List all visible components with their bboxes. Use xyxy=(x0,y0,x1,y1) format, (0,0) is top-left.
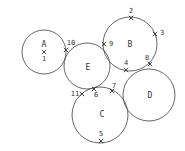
point-label-9: 9 xyxy=(109,40,113,48)
x-marker-icon xyxy=(42,50,46,54)
markers-layer xyxy=(42,16,157,143)
diagram-canvas: ABECD1234567891011 xyxy=(0,0,185,151)
circle-label-e: E xyxy=(86,63,91,72)
point-label-2: 2 xyxy=(129,7,133,15)
x-marker-icon xyxy=(80,92,84,96)
point-label-5: 5 xyxy=(99,130,103,138)
x-marker-icon xyxy=(129,16,133,20)
x-marker-icon xyxy=(102,42,106,46)
point-label-6: 6 xyxy=(94,91,98,99)
circle-label-c: C xyxy=(100,110,105,119)
point-label-10: 10 xyxy=(67,39,75,47)
point-label-3: 3 xyxy=(160,29,164,37)
point-label-11: 11 xyxy=(71,90,79,98)
point-label-4: 4 xyxy=(124,59,128,67)
circles-layer xyxy=(22,17,175,143)
circle-label-a: A xyxy=(42,40,47,49)
point-label-7: 7 xyxy=(112,82,116,90)
circle-label-b: B xyxy=(128,40,133,49)
point-label-8: 8 xyxy=(145,54,149,62)
circles-diagram: ABECD1234567891011 xyxy=(0,0,185,151)
point-label-1: 1 xyxy=(42,55,46,63)
circle-label-d: D xyxy=(148,91,153,100)
x-marker-icon xyxy=(153,32,157,36)
labels-layer: ABECD1234567891011 xyxy=(42,7,165,138)
